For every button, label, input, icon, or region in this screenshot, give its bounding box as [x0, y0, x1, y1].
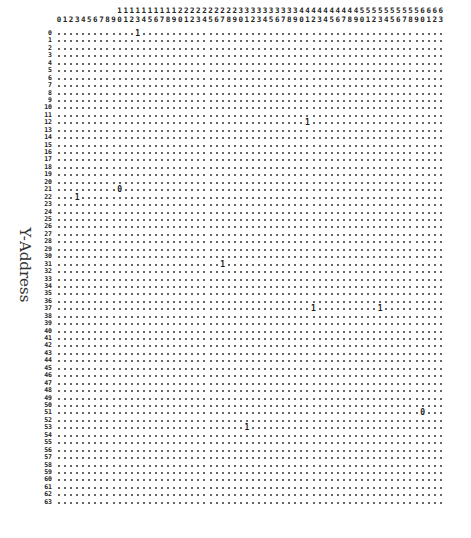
grid-dot	[64, 55, 66, 57]
grid-dot	[276, 197, 278, 199]
grid-dot	[203, 159, 205, 161]
grid-dot	[143, 197, 145, 199]
grid-dot	[185, 323, 187, 325]
grid-dot	[355, 219, 357, 221]
grid-dot	[210, 100, 212, 102]
grid-dot	[137, 405, 139, 407]
grid-dot	[294, 494, 296, 496]
grid-dot	[409, 204, 411, 206]
grid-dot	[288, 204, 290, 206]
grid-dot	[76, 204, 78, 206]
grid-dot	[94, 435, 96, 437]
grid-dot	[216, 55, 218, 57]
grid-dot	[300, 264, 302, 266]
grid-dot	[185, 487, 187, 489]
grid-dot	[337, 398, 339, 400]
column-units-digit: 3	[438, 15, 444, 24]
grid-dot	[185, 234, 187, 236]
grid-dot	[282, 234, 284, 236]
grid-dot	[240, 145, 242, 147]
grid-dot	[282, 293, 284, 295]
grid-dot	[167, 331, 169, 333]
grid-dot	[258, 465, 260, 467]
grid-dot	[173, 197, 175, 199]
grid-dot	[197, 100, 199, 102]
grid-dot	[288, 189, 290, 191]
grid-dot	[397, 152, 399, 154]
grid-dot	[367, 405, 369, 407]
grid-dot	[306, 316, 308, 318]
grid-dot	[119, 301, 121, 303]
grid-dot	[100, 63, 102, 65]
grid-dot	[179, 420, 181, 422]
grid-dot	[349, 442, 351, 444]
grid-dot	[58, 279, 60, 281]
grid-dot	[234, 316, 236, 318]
grid-dot	[258, 479, 260, 481]
grid-dot	[113, 368, 115, 370]
grid-dot	[391, 465, 393, 467]
grid-dot	[385, 137, 387, 139]
grid-dot	[173, 159, 175, 161]
grid-dot	[58, 145, 60, 147]
grid-dot	[119, 226, 121, 228]
grid-dot	[276, 472, 278, 474]
grid-dot	[216, 323, 218, 325]
grid-dot	[88, 256, 90, 258]
grid-dot	[288, 301, 290, 303]
grid-dot	[428, 308, 430, 310]
grid-dot	[64, 353, 66, 355]
grid-dot	[137, 368, 139, 370]
grid-dot	[373, 420, 375, 422]
grid-dot	[179, 465, 181, 467]
grid-dot	[343, 226, 345, 228]
grid-dot	[179, 219, 181, 221]
grid-dot	[179, 435, 181, 437]
grid-dot	[173, 264, 175, 266]
grid-dot	[440, 167, 442, 169]
grid-dot	[306, 435, 308, 437]
grid-dot	[143, 316, 145, 318]
grid-dot	[234, 286, 236, 288]
grid-dot	[276, 115, 278, 117]
grid-dot	[197, 271, 199, 273]
grid-dot	[331, 85, 333, 87]
grid-dot	[367, 345, 369, 347]
grid-dot	[70, 494, 72, 496]
grid-dot	[361, 360, 363, 362]
grid-dot	[106, 338, 108, 340]
grid-dot	[349, 40, 351, 42]
grid-dot	[88, 107, 90, 109]
grid-dot	[82, 197, 84, 199]
grid-dot	[264, 279, 266, 281]
grid-dot	[355, 427, 357, 429]
grid-dot	[416, 360, 418, 362]
grid-dot	[288, 398, 290, 400]
grid-dot	[355, 420, 357, 422]
grid-dot	[367, 241, 369, 243]
grid-dot	[349, 383, 351, 385]
grid-dot	[113, 398, 115, 400]
grid-dot	[228, 100, 230, 102]
grid-dot	[131, 122, 133, 124]
grid-dot	[64, 107, 66, 109]
grid-dot	[391, 405, 393, 407]
grid-dot	[113, 494, 115, 496]
grid-dot	[113, 308, 115, 310]
grid-dot	[119, 40, 121, 42]
grid-dot	[216, 279, 218, 281]
grid-dot	[288, 241, 290, 243]
grid-dot	[434, 241, 436, 243]
grid-dot	[203, 390, 205, 392]
grid-dot	[106, 40, 108, 42]
grid-dot	[106, 502, 108, 504]
grid-dot	[179, 115, 181, 117]
grid-dot	[76, 412, 78, 414]
grid-dot	[379, 122, 381, 124]
grid-dot	[100, 107, 102, 109]
grid-dot	[397, 107, 399, 109]
grid-dot	[300, 234, 302, 236]
grid-dot	[264, 130, 266, 132]
grid-dot	[82, 63, 84, 65]
grid-dot	[210, 494, 212, 496]
